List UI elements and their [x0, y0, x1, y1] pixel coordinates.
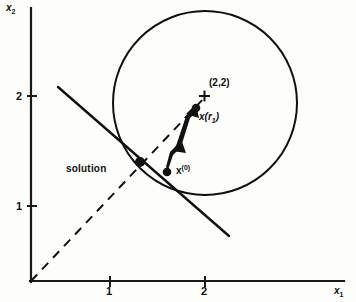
iterate-point-label: x(r1) — [199, 111, 219, 124]
origin-ray-dashed — [31, 96, 206, 281]
start-point-label: x(0) — [176, 164, 190, 176]
point-x-0 — [163, 168, 172, 177]
figure-container: x2 x1 2 1 1 2 (2,2) x(r1) x(0) solution — [0, 0, 356, 302]
solution-label: solution — [66, 163, 106, 174]
x-axis-label: x1 — [334, 285, 343, 298]
x-tick-label-2: 2 — [201, 285, 207, 297]
plot-canvas — [0, 0, 356, 302]
y-axis-label: x2 — [6, 2, 15, 15]
target-point-label: (2,2) — [209, 77, 230, 88]
y-tick-label-1: 1 — [16, 200, 22, 212]
target-plus-icon — [199, 91, 210, 102]
trust-region-circle — [113, 11, 297, 195]
step-vector-group — [166, 104, 199, 170]
x-tick-label-1: 1 — [106, 285, 112, 297]
y-tick-label-2: 2 — [16, 90, 22, 102]
point-solution — [135, 157, 145, 167]
